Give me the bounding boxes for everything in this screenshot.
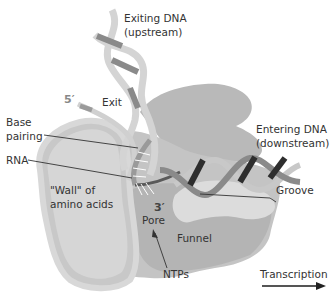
label-transcription: Transcription [259, 268, 328, 280]
label-exit: Exit [102, 96, 122, 108]
label-ntps: NTPs [163, 268, 189, 280]
label-upstream: (upstream) [124, 26, 182, 38]
label-funnel: Funnel [177, 232, 212, 244]
label-amino-acids: amino acids [50, 198, 113, 210]
label-downstream: (downstream) [256, 137, 329, 149]
transcription-diagram: Exiting DNA (upstream) 5′ Exit Base pair… [0, 0, 331, 305]
transcription-arrowhead [316, 282, 326, 290]
label-rna: RNA [6, 154, 29, 166]
label-wall: "Wall" of [50, 184, 95, 196]
label-pore: Pore [142, 214, 165, 226]
label-pairing: pairing [6, 130, 43, 142]
label-groove: Groove [276, 184, 314, 196]
label-entering-dna: Entering DNA [256, 123, 328, 135]
label-three-prime: 3′ [154, 201, 165, 214]
label-base: Base [6, 116, 32, 128]
label-exiting-dna: Exiting DNA [124, 12, 187, 24]
label-five-prime: 5′ [64, 93, 75, 106]
